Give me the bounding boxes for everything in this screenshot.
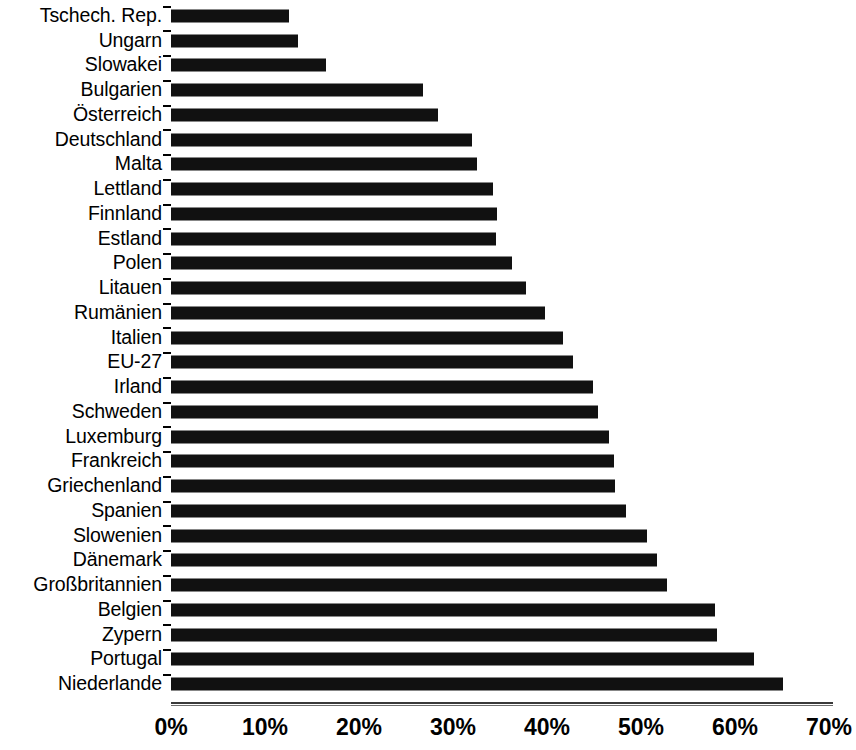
chart-row: Tschech. Rep. (0, 4, 856, 29)
y-axis-tick (163, 303, 171, 305)
chart-row: Finnland (0, 202, 856, 227)
x-axis-tick-label: 0% (154, 716, 187, 739)
y-axis-tick (163, 204, 171, 206)
chart-row: Griechenland (0, 474, 856, 499)
bar (171, 430, 609, 443)
category-label: Niederlande (58, 674, 162, 694)
category-label: Tschech. Rep. (40, 6, 162, 26)
category-label: Litauen (99, 278, 162, 298)
chart-row: Großbritannien (0, 573, 856, 598)
bar (171, 34, 298, 47)
y-axis-tick (163, 6, 171, 8)
chart-row: Irland (0, 375, 856, 400)
category-label: Deutschland (55, 130, 162, 150)
chart-row: Belgien (0, 598, 856, 623)
chart-row: EU-27 (0, 350, 856, 375)
x-axis-tick-label: 40% (524, 716, 570, 739)
bar (171, 480, 615, 493)
chart-row: Malta (0, 152, 856, 177)
y-axis-tick (163, 377, 171, 379)
category-label: Ungarn (99, 31, 162, 51)
bar (171, 232, 496, 245)
bar (171, 579, 667, 592)
category-label: Slowenien (73, 526, 162, 546)
bar (171, 678, 783, 691)
x-axis-tick-label: 50% (618, 716, 664, 739)
y-axis-tick (163, 278, 171, 280)
x-axis-tick-labels: 0%10%20%30%40%50%60%70% (0, 704, 856, 750)
chart-row: Deutschland (0, 127, 856, 152)
y-axis-tick (163, 575, 171, 577)
bar (171, 9, 289, 22)
y-axis-tick (163, 649, 171, 651)
chart-row: Spanien (0, 499, 856, 524)
chart-row: Lettland (0, 177, 856, 202)
y-axis-tick (163, 30, 171, 32)
y-axis-tick (163, 129, 171, 131)
chart-row: Frankreich (0, 449, 856, 474)
chart-row: Österreich (0, 103, 856, 128)
chart-row: Ungarn (0, 28, 856, 53)
y-axis-tick (163, 426, 171, 428)
category-label: EU-27 (107, 353, 162, 373)
chart-row: Litauen (0, 276, 856, 301)
y-axis-tick (163, 154, 171, 156)
y-axis-tick (163, 624, 171, 626)
bar (171, 158, 477, 171)
bar (171, 554, 657, 567)
chart-plot-area: Tschech. Rep.UngarnSlowakeiBulgarienÖste… (0, 0, 856, 702)
chart-row: Estland (0, 226, 856, 251)
category-label: Irland (114, 377, 162, 397)
category-label: Portugal (90, 650, 162, 670)
category-label: Malta (115, 155, 162, 175)
category-label: Griechenland (47, 476, 162, 496)
y-axis-tick (163, 550, 171, 552)
bar (171, 257, 512, 270)
y-axis-tick (163, 179, 171, 181)
x-axis-tick-label: 60% (712, 716, 758, 739)
bar (171, 331, 563, 344)
chart-row: Schweden (0, 400, 856, 425)
category-label: Österreich (73, 105, 162, 125)
bar-chart: Tschech. Rep.UngarnSlowakeiBulgarienÖste… (0, 0, 856, 750)
bar (171, 653, 754, 666)
category-label: Finnland (88, 204, 162, 224)
y-axis-tick (163, 451, 171, 453)
bar (171, 628, 717, 641)
chart-row: Rumänien (0, 301, 856, 326)
category-label: Frankreich (71, 452, 162, 472)
chart-row: Zypern (0, 622, 856, 647)
chart-row: Niederlande (0, 672, 856, 697)
category-label: Großbritannien (33, 575, 162, 595)
category-label: Zypern (102, 625, 162, 645)
category-label: Belgien (98, 600, 162, 620)
category-label: Schweden (72, 402, 162, 422)
category-label: Lettland (93, 179, 162, 199)
y-axis-tick (163, 55, 171, 57)
bar (171, 84, 423, 97)
y-axis-tick (163, 105, 171, 107)
bar (171, 282, 526, 295)
y-axis-tick (163, 674, 171, 676)
chart-row: Luxemburg (0, 424, 856, 449)
y-axis-tick (163, 352, 171, 354)
bar (171, 108, 438, 121)
y-axis-tick (163, 476, 171, 478)
category-label: Spanien (91, 501, 162, 521)
y-axis-tick (163, 228, 171, 230)
chart-row: Dänemark (0, 548, 856, 573)
category-label: Italien (111, 328, 162, 348)
chart-row: Italien (0, 325, 856, 350)
x-axis-tick-label: 70% (806, 716, 852, 739)
bar (171, 504, 626, 517)
y-axis-tick (163, 253, 171, 255)
x-axis-tick-label: 10% (242, 716, 288, 739)
chart-row: Slowenien (0, 523, 856, 548)
bar (171, 183, 493, 196)
y-axis-tick (163, 402, 171, 404)
y-axis-tick (163, 501, 171, 503)
category-label: Bulgarien (81, 80, 163, 100)
y-axis-tick (163, 327, 171, 329)
category-label: Slowakei (85, 56, 162, 76)
category-label: Estland (98, 229, 162, 249)
